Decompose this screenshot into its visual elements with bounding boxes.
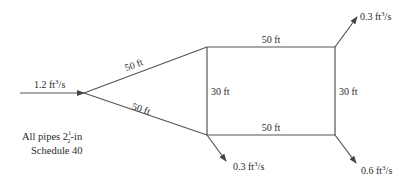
outflow-bottom-left-arrow bbox=[207, 135, 226, 161]
inflow-label: 1.2 ft3/s bbox=[34, 78, 65, 90]
pipe-spec-note-line2: Schedule 40 bbox=[31, 145, 83, 156]
pipe-spec-note-line1: All pipes 212-in bbox=[22, 129, 83, 144]
right-vertical-length: 30 ft bbox=[339, 86, 358, 97]
pipe-network-diagram: 1.2 ft3/s 50 ft 50 ft 50 ft 50 ft 30 ft … bbox=[0, 0, 409, 186]
upper-diagonal-pipe bbox=[84, 47, 207, 93]
outflow-bottom-left-label: 0.3 ft3/s bbox=[233, 160, 264, 172]
left-vertical-length: 30 ft bbox=[211, 86, 230, 97]
outflow-bottom-right-arrow bbox=[335, 135, 356, 163]
outflow-bottom-right-label: 0.6 ft3/s bbox=[361, 164, 392, 176]
lower-diagonal-length: 50 ft bbox=[131, 100, 152, 117]
outflow-top-right-label: 0.3 ft3/s bbox=[360, 10, 391, 22]
upper-diagonal-length: 50 ft bbox=[123, 56, 144, 73]
top-pipe-length: 50 ft bbox=[262, 34, 281, 45]
outflow-top-right-arrow bbox=[335, 17, 357, 47]
bottom-pipe-length: 50 ft bbox=[262, 122, 281, 133]
